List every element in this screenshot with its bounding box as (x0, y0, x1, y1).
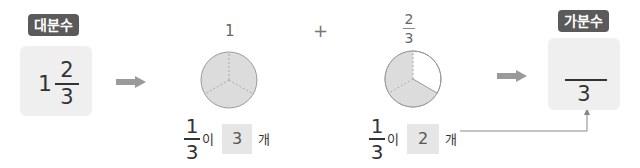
fraction-label: 2 3 (403, 12, 415, 45)
count-answer: 2 (407, 124, 439, 154)
improper-fraction-box: 3 (548, 38, 620, 110)
whole-label: 1 (225, 22, 235, 40)
pie-full-icon (199, 50, 259, 110)
pie-two-thirds-icon (383, 49, 443, 109)
improper-fraction-badge: 가분수 (558, 10, 609, 32)
denominator: 3 (548, 82, 620, 106)
count-answer: 3 (222, 124, 252, 154)
plus-sign: + (313, 20, 328, 41)
arrow-right-icon (116, 76, 146, 88)
unit-fraction: 1 3 (184, 116, 200, 162)
whole-part: 1 (38, 71, 52, 96)
unit-fraction: 1 3 (369, 116, 385, 162)
mixed-number-badge: 대분수 (28, 14, 79, 36)
mixed-fraction: 2 3 (55, 60, 79, 108)
mixed-number-box: 1 2 3 (20, 46, 92, 116)
connector-arrow-icon (460, 108, 590, 138)
denominator: 3 (60, 87, 73, 108)
unit-count-1: 1 3 이 3 개 (184, 116, 270, 162)
arrow-right-icon (497, 70, 527, 82)
numerator: 2 (60, 60, 73, 81)
unit-count-2: 1 3 이 2 개 (369, 116, 457, 162)
numerator-blank[interactable] (548, 48, 620, 68)
